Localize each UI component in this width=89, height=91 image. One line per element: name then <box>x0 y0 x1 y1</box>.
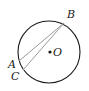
center-point <box>48 50 51 53</box>
label-o: O <box>53 46 62 59</box>
label-b: B <box>66 8 75 21</box>
label-c: C <box>11 70 20 83</box>
circle-diagram: O B A C <box>0 0 89 91</box>
